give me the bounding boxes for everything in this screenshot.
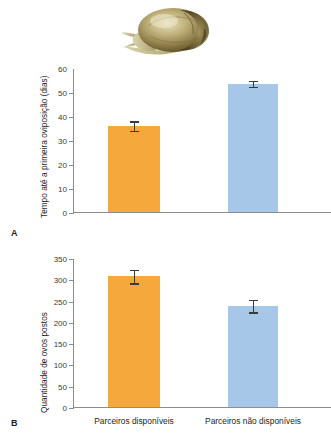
x-axis-category-labels: Parceiros disponíveis Parceiros não disp… [73,416,323,432]
y-tick-label-panel-a: 20 [58,161,67,170]
chart-panel-b: Quantidade de ovos postos 0 50 100 150 [0,250,327,434]
y-tick-panel-b [69,323,74,324]
y-tick-panel-b [69,280,74,281]
y-tick-label-panel-b: 150 [54,340,67,349]
y-tick-label-panel-a: 60 [58,65,67,74]
y-axis-title-panel-a: Tempo até a primeira oviposição (dias) [40,75,49,218]
plot-area-panel-b: 0 50 100 150 200 250 [73,259,323,408]
bar-panel-b-parceiros-nao-disponiveis[interactable] [228,306,278,407]
plot-area-panel-a: 0 10 20 30 40 50 [73,69,323,213]
error-bar-cap-top [130,121,139,122]
y-tick-panel-a [69,141,74,142]
y-tick-label-panel-a: 50 [58,89,67,98]
y-axis-line-panel-b [73,259,74,408]
y-tick-panel-b [69,302,74,303]
y-tick-label-panel-a: 10 [58,185,67,194]
y-tick-panel-a [69,93,74,94]
error-bar-cap-bottom [130,283,139,284]
y-tick-label-panel-b: 0 [63,404,67,413]
bar-panel-b-parceiros-disponiveis[interactable] [108,276,160,407]
panel-label-a: A [11,228,18,238]
y-tick-label-panel-b: 50 [58,382,67,391]
y-tick-label-panel-b: 350 [54,255,67,264]
y-tick-label-panel-a: 40 [58,113,67,122]
x-axis-line-panel-a [73,212,331,213]
error-bar-cap-bottom [130,131,139,132]
error-bar-cap-top [130,270,139,271]
error-bar-cap-bottom [249,312,258,313]
error-bar-cap-top [249,81,258,82]
y-tick-panel-b [69,408,74,409]
y-tick-panel-a [69,165,74,166]
chart-panel-a: Tempo até a primeira oviposição (dias) 0… [0,30,327,226]
y-tick-panel-b [69,344,74,345]
y-tick-label-panel-a: 0 [63,209,67,218]
y-tick-panel-b [69,387,74,388]
x-axis-label-parceiros-disponiveis: Parceiros disponíveis [94,416,174,426]
y-tick-panel-a [69,189,74,190]
bar-panel-a-parceiros-nao-disponiveis[interactable] [228,84,278,212]
y-tick-panel-b [69,365,74,366]
y-tick-label-panel-b: 100 [54,361,67,370]
y-tick-label-panel-b: 250 [54,297,67,306]
error-bar-cap-top [249,300,258,301]
y-tick-panel-a [69,213,74,214]
y-tick-label-panel-b: 200 [54,318,67,327]
error-bar-cap-bottom [249,87,258,88]
y-axis-title-panel-b: Quantidade de ovos postos [40,312,49,413]
bar-panel-a-parceiros-disponiveis[interactable] [108,126,160,212]
y-tick-panel-a [69,117,74,118]
y-tick-label-panel-b: 300 [54,276,67,285]
panel-label-b: B [11,418,18,428]
x-axis-label-parceiros-nao-disponiveis: Parceiros não disponíveis [205,416,301,426]
y-tick-panel-b [69,259,74,260]
y-tick-label-panel-a: 30 [58,137,67,146]
x-axis-line-panel-b [73,407,331,408]
